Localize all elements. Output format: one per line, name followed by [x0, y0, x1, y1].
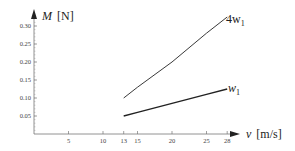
x-tick-label: 20: [169, 137, 176, 144]
series-line-4w1: [124, 17, 228, 98]
y-tick-label: 0.10: [20, 94, 31, 101]
chart: 0.050.100.150.200.250.30 5101315202528 M…: [0, 0, 295, 151]
series-line-w1: [124, 89, 228, 116]
x-tick-label: 28: [224, 137, 231, 144]
x-tick-label: 15: [134, 137, 141, 144]
x-tick-label: 10: [100, 137, 107, 144]
x-tick-label: 5: [67, 137, 70, 144]
series-label-w1: w1: [228, 81, 240, 97]
y-axis-arrow-icon: [31, 9, 37, 19]
series-lines: [124, 17, 228, 116]
x-axis-arrow-icon: [230, 131, 240, 137]
y-tick-label: 0.30: [20, 22, 31, 29]
x-axis-ticks: 5101315202528: [67, 131, 231, 144]
x-tick-label: 13: [120, 137, 127, 144]
series-label-4w1: 4w1: [226, 12, 245, 28]
y-axis-title: M[N]: [41, 9, 74, 23]
y-tick-label: 0.15: [20, 76, 31, 83]
x-tick-label: 25: [203, 137, 210, 144]
y-tick-label: 0.05: [20, 112, 31, 119]
y-tick-label: 0.20: [20, 58, 31, 65]
y-tick-label: 0.25: [20, 40, 31, 47]
x-axis-title: v[m/s]: [246, 127, 282, 141]
